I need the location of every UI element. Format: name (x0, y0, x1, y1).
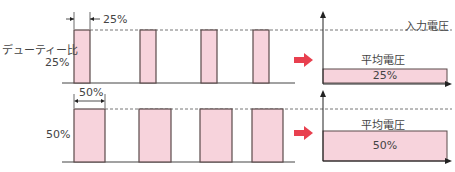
pulse (200, 109, 232, 162)
axis-arrow-up-icon (320, 11, 326, 18)
top-average-voltage-label: 平均電圧 (361, 51, 405, 67)
bottom-duty-value: 50% (46, 128, 70, 141)
bottom-width-annotation: 50% (79, 86, 103, 99)
pulse (139, 109, 171, 162)
input-voltage-label: 入力電圧 (405, 17, 449, 33)
bottom-average-value: 50% (323, 131, 447, 161)
duty-ratio-label: デューティー比 (2, 41, 78, 57)
top-width-annotation: 25% (103, 13, 127, 26)
pulse (201, 30, 217, 83)
pulse (140, 30, 156, 83)
right-arrow-icon (294, 53, 313, 67)
top-duty-value: 25% (45, 56, 69, 69)
bottom-average-voltage-label: 平均電圧 (361, 116, 405, 132)
axis-arrow-up-icon (320, 90, 326, 97)
top-average-value: 25% (323, 69, 447, 83)
pulse (253, 30, 269, 83)
pulse (74, 109, 105, 162)
pulse (252, 109, 283, 162)
right-arrow-icon (294, 126, 313, 140)
